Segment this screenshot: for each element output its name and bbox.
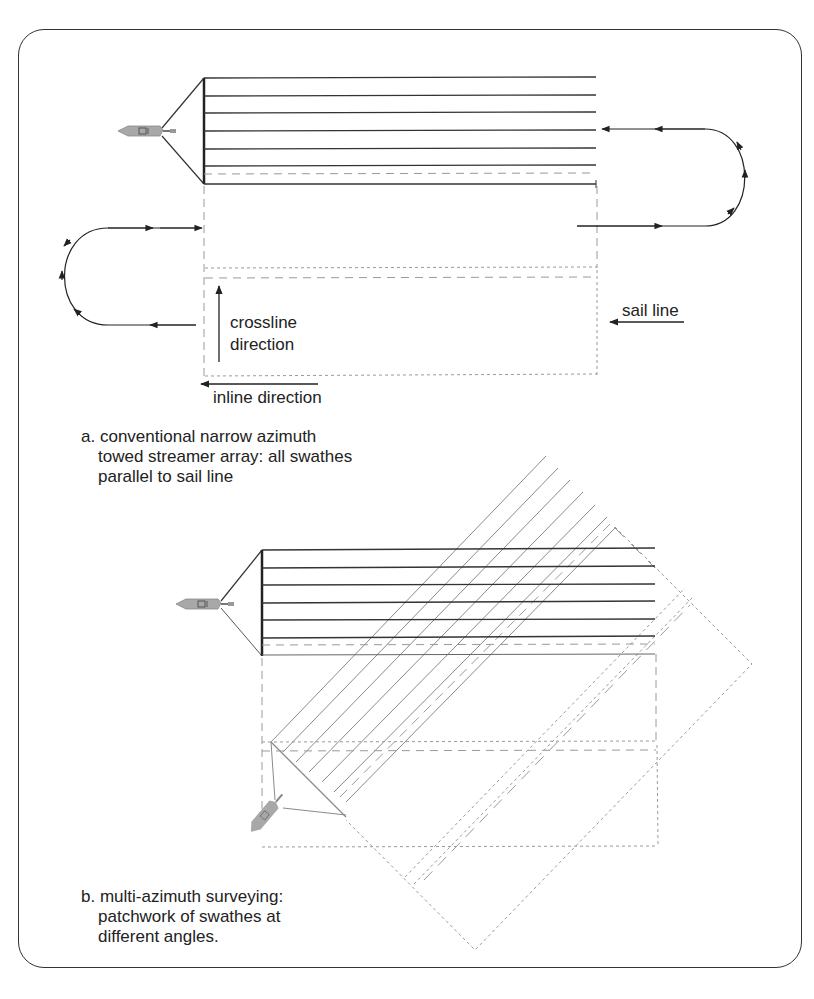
rotated-swath-boundary: [340, 522, 612, 797]
panel-b: [176, 456, 752, 950]
sail-line-label: sail line: [622, 300, 679, 322]
caption-a-marker: a.: [81, 427, 95, 446]
turn-loop-left: [62, 228, 202, 325]
streamers: [204, 77, 596, 184]
swath-outline: [262, 654, 658, 847]
caption-b-line: different angles.: [81, 927, 283, 947]
tow-line: [162, 78, 204, 128]
caption-b: b. multi-azimuth surveying: patchwork of…: [81, 887, 283, 947]
vessel-icon: [176, 599, 234, 609]
swath-boundary: [204, 173, 596, 174]
caption-a-line: parallel to sail line: [81, 467, 352, 487]
rotated-vessel-icon: [246, 742, 346, 836]
streamers: [262, 548, 655, 638]
panel-a: [62, 77, 745, 384]
crossline-direction-label: crossline direction: [230, 312, 297, 356]
rotated-swath-outline: [346, 527, 752, 950]
turn-loop-right: [577, 129, 745, 226]
caption-a-line: towed streamer array: all swathes: [81, 447, 352, 467]
caption-b-line: patchwork of swathes at: [81, 907, 283, 927]
caption-b-marker: b.: [81, 887, 95, 906]
caption-a: a. conventional narrow azimuth towed str…: [81, 427, 352, 487]
caption-b-line: multi-azimuth surveying:: [100, 887, 283, 906]
caption-a-line: conventional narrow azimuth: [100, 427, 316, 446]
tow-line: [162, 136, 204, 184]
survey-diagram: [0, 0, 814, 999]
vessel-icon: [118, 126, 176, 136]
inline-direction-label: inline direction: [213, 387, 322, 409]
